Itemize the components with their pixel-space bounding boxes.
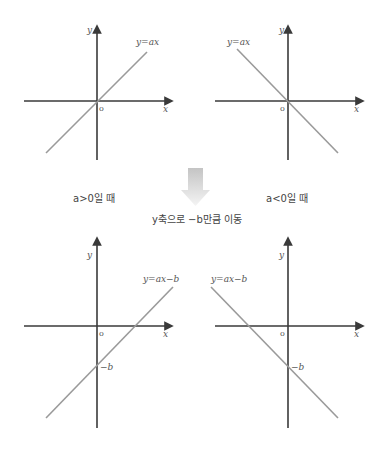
- intercept-label: −b: [291, 362, 305, 372]
- equation-label: y=ax−b: [210, 274, 248, 284]
- x-axis-label: x: [163, 104, 168, 114]
- origin-label: o: [280, 104, 285, 113]
- x-axis-label: x: [163, 329, 168, 339]
- caption-negative-case: a<0일 때: [266, 193, 308, 204]
- y-axis-label: y: [86, 250, 93, 260]
- y-axis-label: y: [278, 25, 285, 35]
- x-axis-label: x: [354, 104, 359, 114]
- graph-bottom-right: y=ax−b x y o −b: [210, 241, 360, 428]
- equation-label: y=ax−b: [142, 274, 180, 284]
- graph-bottom-left: y=ax−b x y o −b: [24, 241, 180, 428]
- origin-label: o: [99, 329, 104, 338]
- line-y-eq-ax-minus-b: [211, 287, 338, 418]
- equation-label: y=ax: [135, 37, 159, 47]
- caption-transform: y축으로 −b만큼 이동: [152, 214, 242, 225]
- x-axis-label: x: [354, 329, 359, 339]
- intercept-label: −b: [100, 362, 114, 372]
- equation-label: y=ax: [226, 37, 250, 47]
- y-axis-label: y: [278, 250, 285, 260]
- origin-label: o: [99, 104, 104, 113]
- down-arrow-icon: [181, 168, 210, 206]
- y-axis-label: y: [86, 25, 93, 35]
- linear-function-diagram: y=ax x y o y=ax x y o a>0일 때 a<0일 때 y축으로…: [0, 0, 382, 455]
- graph-top-left: y=ax x y o: [24, 25, 169, 160]
- line-y-eq-ax-minus-b: [46, 287, 173, 418]
- graph-top-right: y=ax x y o: [215, 25, 360, 160]
- origin-label: o: [280, 329, 285, 338]
- caption-positive-case: a>0일 때: [73, 193, 115, 204]
